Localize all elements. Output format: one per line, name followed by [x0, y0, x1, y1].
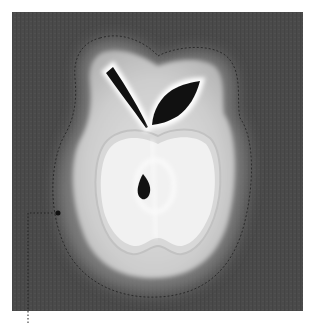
figure: Grayscale apple illustration with layere…	[0, 0, 310, 323]
callout-anchor-dot	[56, 211, 61, 216]
apple-flesh	[101, 137, 215, 246]
